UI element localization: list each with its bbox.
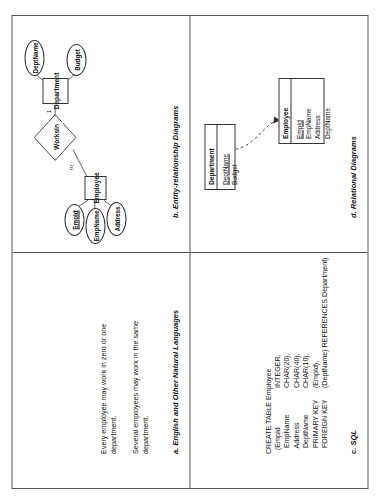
sql-line-left: DeptName (301, 388, 310, 454)
sql-line-left: FOREIGN KEY (320, 388, 329, 454)
er-cardinality-1: 1 (44, 110, 51, 113)
er-attribute-deptname-label: DeptName (31, 42, 38, 73)
sql-line-right: CHAR(10), (301, 353, 310, 388)
sql-line-right: CHAR(20), (282, 353, 291, 388)
nl-paragraph-2: Several employees may work in the same d… (130, 294, 150, 454)
relation-attribute: Budget (229, 129, 238, 185)
sql-line-right: INTEGER, (273, 354, 282, 388)
er-relationship-worksin: WorksIn (48, 122, 62, 152)
relation-attribute: DeptName (322, 83, 331, 139)
sql-line: CREATE TABLE Employee (264, 258, 273, 454)
sql-line-right: (DeptName) REFERENCES Department) (320, 258, 329, 388)
relation-employee: Employee EmpId EmpName Address DeptName (278, 78, 324, 144)
sql-line-right: (EmpId), (311, 361, 320, 388)
nl-paragraph-1: Every employee may work in zero or one d… (98, 294, 118, 454)
panel-relational-diagram: Department DeptName Budget Employee EmpI… (190, 16, 368, 252)
er-attribute-address-label: Address (113, 206, 120, 231)
sql-line-left: Address (292, 388, 301, 454)
sql-line: EmpName CHAR(20), (282, 258, 291, 454)
er-entity-department: Department (42, 78, 68, 104)
sql-line: DeptName CHAR(10), (301, 258, 310, 454)
er-attribute-empname: EmpName (85, 208, 105, 244)
sql-line: (EmpId INTEGER, (273, 258, 282, 454)
sql-line-left: PRIMARY KEY (311, 388, 320, 454)
relation-attribute: EmpId (294, 83, 303, 139)
sql-line: FOREIGN KEY (DeptName) REFERENCES Depart… (320, 258, 329, 454)
caption-panel-c: c. SQL (348, 430, 357, 454)
er-attribute-empname-label: EmpName (92, 211, 99, 242)
relation-attribute: Address (312, 83, 321, 139)
sql-line-left: EmpName (282, 388, 291, 454)
er-attribute-empid: EmpId (64, 204, 84, 236)
relation-employee-header: Employee (279, 79, 291, 143)
relation-department-header: Department (205, 125, 217, 189)
caption-panel-a: a. English and Other Natural Languages (170, 310, 179, 454)
sql-line-right: CHAR(40), (292, 353, 301, 388)
sql-line-left: CREATE TABLE Employee (264, 388, 273, 454)
sql-line: Address CHAR(40), (292, 258, 301, 454)
er-attribute-budget: Budget (66, 44, 86, 76)
caption-panel-d: d. Relational Diagrams (348, 136, 357, 218)
er-attribute-deptname: DeptName (24, 40, 44, 76)
panel-natural-language: Every employee may work in zero or one d… (12, 252, 190, 488)
relation-attribute: DeptName (220, 129, 229, 185)
relation-employee-attributes: EmpId EmpName Address DeptName (291, 79, 336, 143)
er-attribute-address: Address (106, 202, 126, 236)
relation-department: Department DeptName Budget (204, 124, 235, 190)
sql-line: PRIMARY KEY (EmpId), (311, 258, 320, 454)
panel-er-diagram: Employee EmpId EmpName Address WorksIn m… (12, 16, 190, 252)
er-attribute-empid-label: EmpId (71, 210, 78, 229)
sql-code-block: CREATE TABLE Employee (EmpId INTEGER, Em… (264, 258, 330, 454)
sql-line-left: (EmpId (273, 388, 282, 454)
figure-frame: Every employee may work in zero or one d… (0, 0, 381, 500)
relation-department-attributes: DeptName Budget (217, 125, 243, 189)
panel-sql: CREATE TABLE Employee (EmpId INTEGER, Em… (190, 252, 368, 488)
er-cardinality-m: m (66, 165, 73, 170)
er-attribute-budget-label: Budget (73, 49, 80, 71)
panel-grid: Every employee may work in zero or one d… (11, 15, 368, 489)
caption-panel-b: b. Entity-relationship Diagrams (170, 106, 179, 218)
rotated-figure: Every employee may work in zero or one d… (0, 0, 381, 500)
er-entity-employee: Employee (84, 176, 106, 200)
relation-attribute: EmpName (303, 83, 312, 139)
